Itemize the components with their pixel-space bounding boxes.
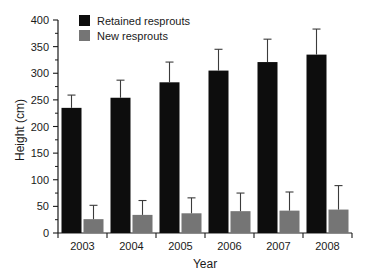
bar-retained-2006 (209, 71, 229, 233)
bar-group (62, 55, 349, 233)
x-tick-label-2005: 2005 (168, 240, 192, 252)
y-axis-title: Height (cm) (13, 99, 27, 161)
x-axis-title: Year (193, 257, 217, 271)
bar-new-2003 (84, 219, 104, 233)
x-axis-ticks (58, 233, 352, 238)
bar-chart: 050100150200250300350400 200320042005200… (0, 0, 373, 276)
x-axis-tick-labels: 200320042005200620072008 (70, 240, 339, 252)
legend-swatch-1 (79, 30, 90, 41)
chart-figure: 050100150200250300350400 200320042005200… (0, 0, 373, 276)
y-tick-label: 250 (31, 94, 49, 106)
bar-retained-2004 (111, 98, 131, 233)
y-axis-tick-labels: 050100150200250300350400 (31, 14, 49, 239)
x-tick-label-2007: 2007 (266, 240, 290, 252)
y-tick-label: 400 (31, 14, 49, 26)
bar-new-2005 (182, 213, 202, 233)
y-tick-label: 150 (31, 147, 49, 159)
x-tick-label-2008: 2008 (315, 240, 339, 252)
bar-retained-2007 (258, 62, 278, 233)
bar-retained-2008 (307, 55, 327, 233)
bar-retained-2003 (62, 108, 82, 233)
x-tick-label-2006: 2006 (217, 240, 241, 252)
bar-new-2007 (280, 211, 300, 233)
bar-new-2008 (329, 210, 349, 233)
y-tick-label: 350 (31, 41, 49, 53)
x-tick-label-2003: 2003 (70, 240, 94, 252)
error-bar-group (68, 29, 343, 219)
legend-label-0: Retained resprouts (97, 15, 190, 27)
legend-swatch-0 (79, 15, 90, 26)
y-tick-label: 100 (31, 174, 49, 186)
legend-label-1: New resprouts (97, 30, 168, 42)
y-tick-label: 200 (31, 121, 49, 133)
bar-retained-2005 (160, 82, 180, 233)
x-tick-label-2004: 2004 (119, 240, 143, 252)
chart-legend: Retained resproutsNew resprouts (79, 15, 190, 42)
y-axis-ticks (53, 20, 58, 233)
y-tick-label: 50 (37, 200, 49, 212)
bar-new-2004 (133, 215, 153, 233)
y-tick-label: 0 (43, 227, 49, 239)
y-tick-label: 300 (31, 67, 49, 79)
bar-new-2006 (231, 211, 251, 233)
